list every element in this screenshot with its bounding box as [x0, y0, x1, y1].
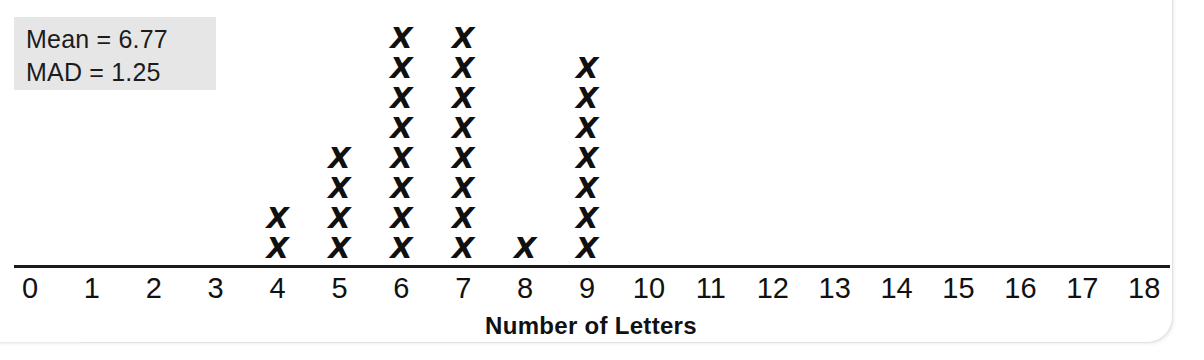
x-axis-tick-label-9: 9 — [557, 270, 617, 306]
marker-stack-4: XX — [255, 203, 301, 263]
data-marker: X — [328, 203, 350, 233]
data-marker: X — [390, 203, 412, 233]
marker-stack-8: X — [502, 233, 548, 263]
x-axis-tick-label-14: 14 — [867, 270, 927, 306]
dot-plot-figure: Mean = 6.77 MAD = 1.25 XXXXXXXXXXXXXXXXX… — [0, 0, 1204, 360]
marker-stack-9: XXXXXXX — [564, 53, 610, 263]
x-axis-line — [14, 265, 1170, 268]
marker-stack-5: XXXX — [317, 143, 363, 263]
x-axis-tick-label-16: 16 — [990, 270, 1050, 306]
x-axis-tick-label-18: 18 — [1114, 270, 1174, 306]
marker-stack-6: XXXXXXXX — [378, 23, 424, 263]
x-axis-tick-label-0: 0 — [0, 270, 60, 306]
data-marker: X — [390, 173, 412, 203]
data-marker: X — [576, 83, 598, 113]
x-axis-tick-label-15: 15 — [929, 270, 989, 306]
data-marker: X — [452, 53, 474, 83]
data-marker: X — [452, 173, 474, 203]
data-marker: X — [452, 113, 474, 143]
x-axis-tick-label-3: 3 — [186, 270, 246, 306]
x-axis-title: Number of Letters — [0, 312, 1204, 340]
data-marker: X — [576, 53, 598, 83]
plot-area: XXXXXXXXXXXXXXXXXXXXXXXXXXXXXX 012345678… — [0, 0, 1204, 360]
data-marker: X — [390, 143, 412, 173]
data-marker: X — [452, 143, 474, 173]
data-marker: X — [390, 83, 412, 113]
data-marker: X — [452, 203, 474, 233]
x-axis-tick-label-2: 2 — [124, 270, 184, 306]
x-axis-tick-label-13: 13 — [805, 270, 865, 306]
x-axis-tick-label-12: 12 — [743, 270, 803, 306]
data-marker: X — [576, 203, 598, 233]
data-marker: X — [266, 233, 288, 263]
data-marker: X — [576, 113, 598, 143]
data-marker: X — [452, 233, 474, 263]
data-marker: X — [576, 233, 598, 263]
x-axis-title-text: Number of Letters — [485, 312, 697, 340]
data-marker: X — [390, 233, 412, 263]
x-axis-tick-label-10: 10 — [619, 270, 679, 306]
marker-stack-7: XXXXXXXX — [440, 23, 486, 263]
data-marker: X — [390, 53, 412, 83]
x-axis-tick-label-11: 11 — [681, 270, 741, 306]
data-marker: X — [452, 23, 474, 53]
data-marker: X — [576, 173, 598, 203]
x-axis-tick-label-6: 6 — [371, 270, 431, 306]
x-axis-tick-label-7: 7 — [433, 270, 493, 306]
data-marker: X — [328, 143, 350, 173]
data-marker: X — [452, 83, 474, 113]
data-marker: X — [390, 113, 412, 143]
data-marker: X — [328, 233, 350, 263]
data-marker: X — [328, 173, 350, 203]
x-axis-tick-label-8: 8 — [495, 270, 555, 306]
data-marker: X — [390, 23, 412, 53]
x-axis-tick-label-17: 17 — [1052, 270, 1112, 306]
data-marker: X — [514, 233, 536, 263]
x-axis-tick-label-5: 5 — [310, 270, 370, 306]
data-marker: X — [576, 143, 598, 173]
x-axis-tick-label-1: 1 — [62, 270, 122, 306]
data-marker: X — [266, 203, 288, 233]
x-axis-tick-label-4: 4 — [248, 270, 308, 306]
